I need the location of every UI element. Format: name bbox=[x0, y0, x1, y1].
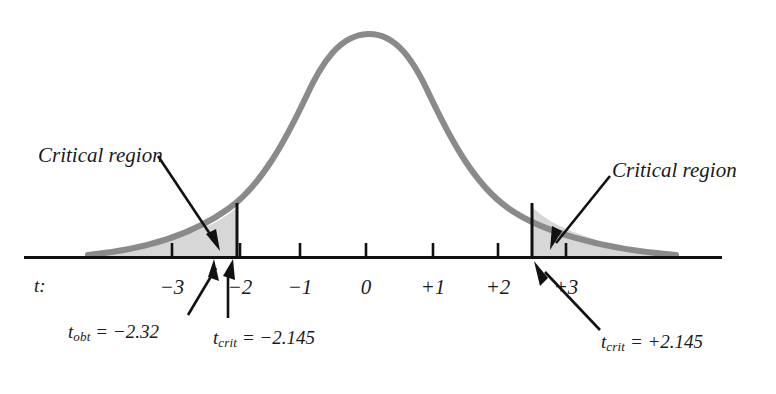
t-obt-value: −2.32 bbox=[113, 321, 159, 342]
tick-label-+3: +3 bbox=[554, 277, 579, 298]
tick-label-0: 0 bbox=[361, 277, 372, 298]
critical-region-label-left: Critical region bbox=[38, 145, 163, 166]
t-crit-negative-equals: = bbox=[242, 327, 255, 348]
tick-label-+2: +2 bbox=[486, 277, 511, 298]
t-crit-negative-subscript: crit bbox=[218, 335, 237, 350]
t-obt-arrow bbox=[188, 259, 219, 315]
t-crit-positive-equals: = bbox=[630, 331, 643, 352]
critical-region-label-right: Critical region bbox=[612, 160, 737, 181]
tick-label--2: −2 bbox=[228, 277, 253, 298]
t-crit-positive-value: +2.145 bbox=[647, 331, 703, 352]
bell-curve bbox=[88, 34, 676, 255]
t-obt-subscript: obt bbox=[73, 329, 90, 344]
t-crit-positive-label: tcrit = +2.145 bbox=[601, 332, 703, 353]
t-crit-negative-value: −2.145 bbox=[259, 327, 315, 348]
critical-region-figure: Critical region Critical region t: −3 −2… bbox=[0, 0, 776, 394]
tick-label-+1: +1 bbox=[421, 277, 446, 298]
t-obt-label: tobt = −2.32 bbox=[68, 322, 159, 343]
axis-name-label: t: bbox=[34, 276, 46, 295]
t-crit-positive-subscript: crit bbox=[606, 339, 625, 354]
tick-label--1: −1 bbox=[288, 277, 313, 298]
t-obt-equals: = bbox=[95, 321, 108, 342]
t-crit-negative-label: tcrit = −2.145 bbox=[213, 328, 315, 349]
tick-label--3: −3 bbox=[160, 277, 185, 298]
